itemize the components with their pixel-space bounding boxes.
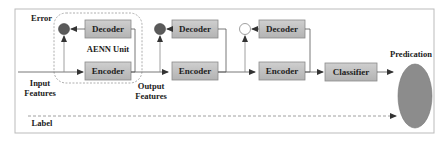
decoder-label-3: Decoder [266, 24, 298, 34]
label-text: Label [32, 118, 53, 128]
encoder-label-1: Encoder [92, 66, 125, 76]
decoder-label-2: Decoder [179, 24, 211, 34]
prediction-ellipse[interactable] [398, 64, 432, 128]
aenn-diagram: Decoder Encoder Decoder Encoder Decoder … [0, 0, 448, 141]
error-label: Error [31, 13, 52, 23]
encoder-label-3: Encoder [266, 66, 299, 76]
input-features-label-1: Input [30, 78, 50, 88]
output-features-label-1: Output [138, 81, 165, 91]
error-node-1 [59, 24, 70, 35]
error-node-3 [240, 24, 251, 35]
classifier-label: Classifier [333, 67, 370, 77]
output-features-label-2: Features [135, 91, 167, 101]
decoder-label-1: Decoder [92, 24, 124, 34]
prediction-label: Predication [390, 49, 432, 59]
error-node-2 [155, 24, 166, 35]
aenn-unit-label: AENN Unit [87, 44, 129, 54]
input-features-label-2: Features [24, 88, 56, 98]
encoder-label-2: Encoder [179, 66, 212, 76]
